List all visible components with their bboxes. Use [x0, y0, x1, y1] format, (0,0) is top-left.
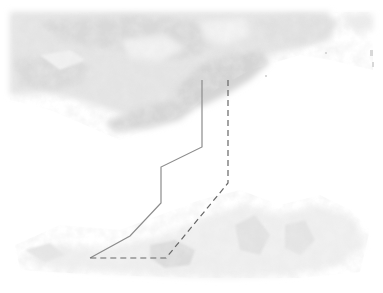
- satellite-cloud-map: [0, 0, 383, 293]
- satellite-image: [0, 0, 383, 293]
- cloud-mass-north: [10, 12, 373, 142]
